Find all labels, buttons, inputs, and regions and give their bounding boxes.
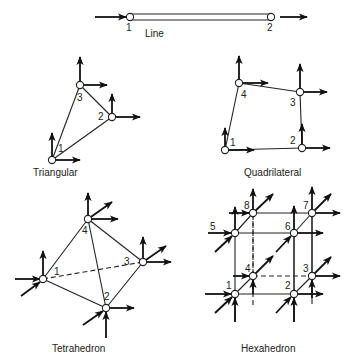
node-number-label: 3 bbox=[124, 256, 130, 267]
quadrilateral-edge bbox=[239, 83, 300, 92]
tetrahedron-edge bbox=[88, 219, 143, 262]
hexahedron-node-2 bbox=[290, 290, 297, 297]
line-caption: Line bbox=[145, 28, 164, 39]
triangular-node-2 bbox=[108, 113, 115, 120]
quadrilateral-caption: Quadrilateral bbox=[244, 167, 301, 178]
node-number-label: 1 bbox=[230, 137, 236, 148]
node-number-label: 3 bbox=[77, 92, 83, 103]
hexahedron-node-6 bbox=[290, 229, 297, 236]
node-number-label: 1 bbox=[54, 266, 60, 277]
quadrilateral-node-3 bbox=[296, 88, 303, 95]
tetrahedron-node-1 bbox=[39, 275, 46, 282]
node-number-label: 2 bbox=[104, 291, 110, 302]
hexahedron-node-8 bbox=[249, 209, 256, 216]
node-number-label: 3 bbox=[303, 263, 309, 274]
triangular-edge bbox=[52, 85, 80, 160]
hexahedron-node-5 bbox=[231, 229, 238, 236]
node-number-label: 4 bbox=[82, 225, 88, 236]
dof-arrow-icon bbox=[215, 236, 232, 252]
finite-element-types-diagram: 12Line123Triangular1234Quadrilateral1234… bbox=[0, 0, 351, 361]
line-node-2 bbox=[267, 13, 274, 20]
tetrahedron-node-4 bbox=[84, 215, 91, 222]
node-number-label: 2 bbox=[285, 280, 291, 291]
dof-arrow-icon bbox=[276, 236, 291, 252]
dof-arrow-icon bbox=[253, 256, 273, 276]
node-number-label: 5 bbox=[210, 221, 216, 232]
tetrahedron-edge bbox=[106, 262, 143, 308]
quadrilateral-node-2 bbox=[298, 144, 305, 151]
node-number-label: 2 bbox=[290, 135, 296, 146]
tetrahedron-node-3 bbox=[139, 258, 146, 265]
triangular-node-1 bbox=[48, 156, 55, 163]
node-number-label: 7 bbox=[303, 200, 309, 211]
line-node-1 bbox=[126, 13, 133, 20]
labels-layer: 12Line123Triangular1234Quadrilateral1234… bbox=[33, 22, 309, 354]
dof-arrow-icon bbox=[143, 246, 166, 262]
dof-arrow-icon bbox=[21, 282, 40, 296]
triangular-caption: Triangular bbox=[33, 167, 78, 178]
quadrilateral-node-1 bbox=[221, 146, 228, 153]
dof-arrow-icon bbox=[276, 297, 291, 313]
dof-arrow-icon bbox=[83, 311, 103, 325]
hexahedron-node-3 bbox=[308, 272, 315, 279]
tetrahedron-node-2 bbox=[102, 304, 109, 311]
tetrahedron-edge bbox=[43, 279, 106, 308]
node-number-label: 1 bbox=[126, 22, 132, 33]
dof-arrow-icon bbox=[88, 202, 112, 219]
hexahedron-caption: Hexahedron bbox=[241, 343, 295, 354]
node-number-label: 6 bbox=[285, 221, 291, 232]
node-number-label: 3 bbox=[290, 97, 296, 108]
hexahedron-node-7 bbox=[308, 209, 315, 216]
dof-arrow-icon bbox=[215, 297, 232, 313]
node-number-label: 2 bbox=[98, 111, 104, 122]
node-number-label: 4 bbox=[241, 89, 247, 100]
node-number-label: 1 bbox=[226, 280, 232, 291]
node-number-label: 8 bbox=[244, 200, 250, 211]
quadrilateral-node-4 bbox=[235, 79, 242, 86]
triangular-edge bbox=[80, 85, 112, 117]
triangular-node-3 bbox=[76, 81, 83, 88]
node-number-label: 1 bbox=[58, 143, 64, 154]
line-element-bar bbox=[130, 14, 271, 20]
hexahedron-node-1 bbox=[231, 290, 238, 297]
tetrahedron-caption: Tetrahedron bbox=[52, 343, 105, 354]
node-number-label: 2 bbox=[267, 22, 273, 33]
node-number-label: 4 bbox=[245, 263, 251, 274]
